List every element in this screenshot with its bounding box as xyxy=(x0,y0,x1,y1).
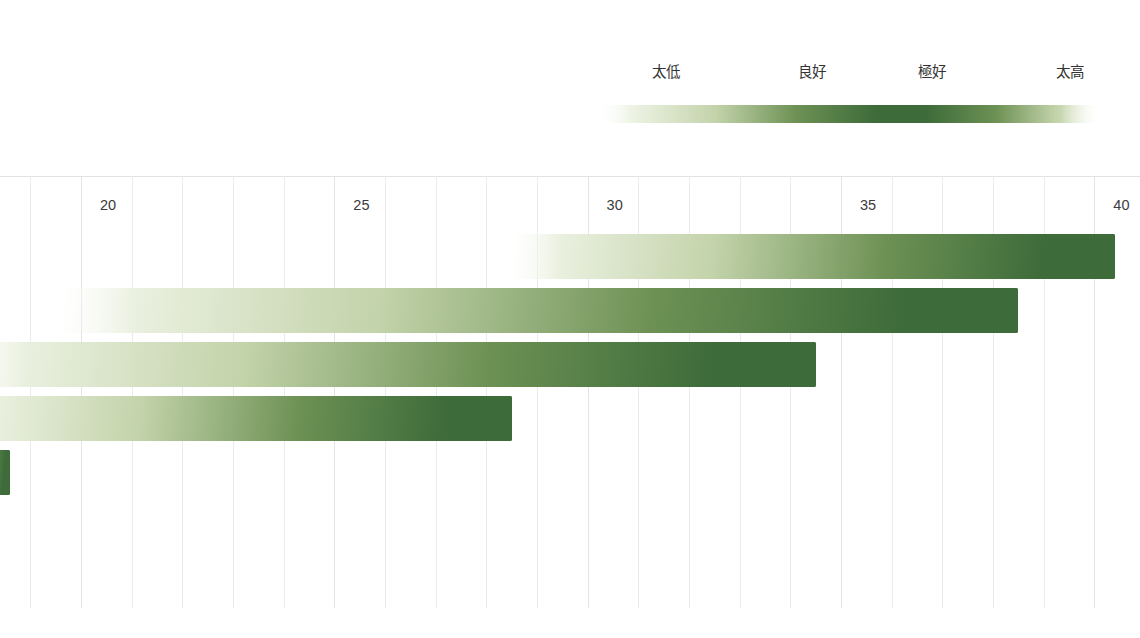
bar-series xyxy=(0,176,1140,610)
bar xyxy=(0,450,10,495)
bar xyxy=(0,396,512,441)
legend-gradient-bar xyxy=(596,105,1096,123)
chart-legend: 太低 良好 極好 太高 xyxy=(596,52,1096,132)
bar xyxy=(507,234,1115,279)
legend-label-row: 太低 良好 極好 太高 xyxy=(596,52,1096,82)
bar xyxy=(0,342,816,387)
legend-label-good: 良好 xyxy=(798,60,827,81)
chart-container: 太低 良好 極好 太高 2025303540 xyxy=(0,0,1140,638)
plot-area: 2025303540 xyxy=(0,176,1140,610)
legend-label-too-high: 太高 xyxy=(1056,60,1085,81)
legend-label-too-low: 太低 xyxy=(652,60,681,81)
bar xyxy=(51,288,1019,333)
legend-label-excellent: 極好 xyxy=(918,60,947,81)
